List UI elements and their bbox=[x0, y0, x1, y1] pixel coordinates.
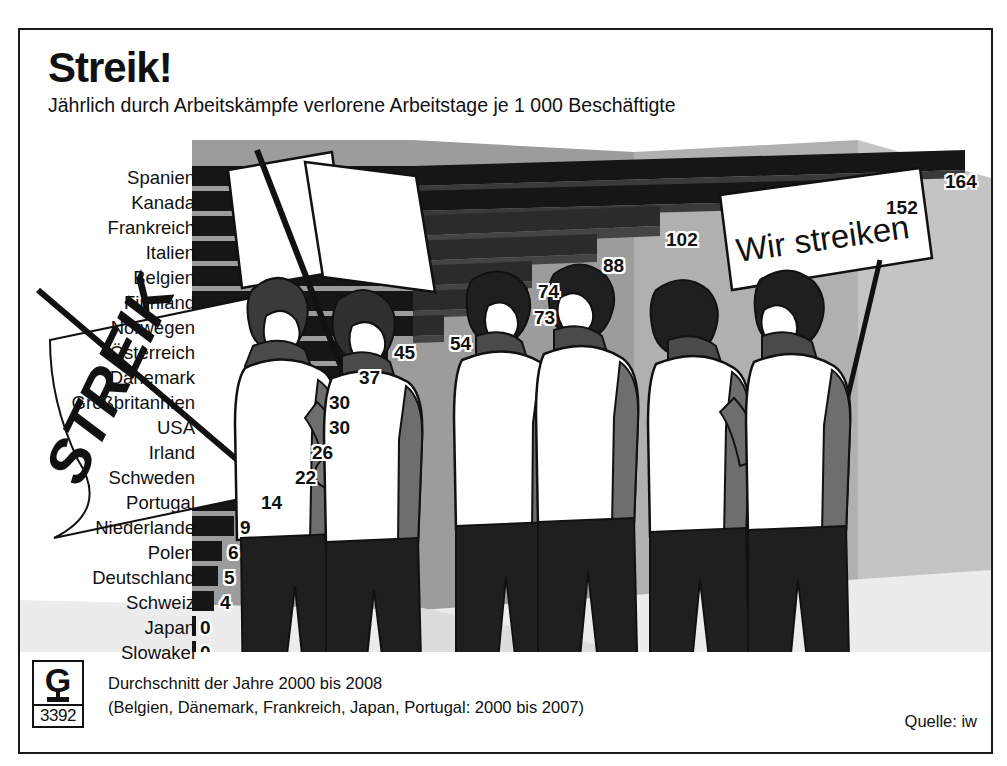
category-label-usa: USA bbox=[20, 419, 195, 438]
globus-g-icon: G bbox=[36, 663, 80, 705]
value-label-schweden: 22 bbox=[295, 468, 316, 487]
value-label-daenemark: 37 bbox=[359, 368, 380, 387]
category-label-irland: Irland bbox=[20, 444, 195, 463]
footer: G 3392 Durchschnitt der Jahre 2000 bis 2… bbox=[20, 652, 991, 750]
value-label-deutschland: 5 bbox=[224, 568, 235, 587]
category-label-daenemark: Dänemark bbox=[20, 369, 195, 388]
value-label-frankreich: 102 bbox=[666, 230, 698, 249]
category-label-schweden: Schweden bbox=[20, 469, 195, 488]
category-label-schweiz: Schweiz bbox=[20, 594, 195, 613]
value-label-kanada: 152 bbox=[886, 198, 918, 217]
source-attribution: Quelle: iw bbox=[905, 712, 977, 731]
bar-polen bbox=[192, 541, 222, 561]
footer-note-line-1: Durchschnitt der Jahre 2000 bis 2008 bbox=[108, 674, 382, 693]
value-label-usa: 30 bbox=[329, 418, 350, 437]
value-label-belgien: 74 bbox=[538, 282, 559, 301]
value-label-schweiz: 4 bbox=[220, 593, 231, 612]
bar-deutschland bbox=[192, 566, 218, 586]
category-label-kanada: Kanada bbox=[20, 194, 195, 213]
category-label-spanien: Spanien bbox=[20, 169, 195, 188]
category-label-italien: Italien bbox=[20, 244, 195, 263]
page-subtitle: Jährlich durch Arbeitskämpfe verlorene A… bbox=[48, 94, 676, 117]
category-label-portugal: Portugal bbox=[20, 494, 195, 513]
globus-logo: G 3392 bbox=[32, 660, 84, 728]
footer-note-line-2: (Belgien, Dänemark, Frankreich, Japan, P… bbox=[108, 698, 584, 717]
value-label-spanien: 164 bbox=[945, 172, 977, 191]
page-title: Streik! bbox=[48, 44, 172, 92]
category-label-japan: Japan bbox=[20, 619, 195, 638]
infographic-frame: Streik! Jährlich durch Arbeitskämpfe ver… bbox=[18, 28, 993, 754]
category-label-niederlande: Niederlande bbox=[20, 519, 195, 538]
bar-niederlande bbox=[192, 516, 234, 536]
category-label-grossbritannien: Großbritannien bbox=[20, 394, 195, 413]
category-label-polen: Polen bbox=[20, 544, 195, 563]
infographic-page: Streik! Jährlich durch Arbeitskämpfe ver… bbox=[0, 0, 1007, 766]
value-label-irland: 26 bbox=[312, 443, 333, 462]
category-label-deutschland: Deutschland bbox=[20, 569, 195, 588]
globus-logo-number: 3392 bbox=[34, 704, 82, 726]
category-label-belgien: Belgien bbox=[20, 269, 195, 288]
category-label-oesterreich: Österreich bbox=[20, 344, 195, 363]
value-label-portugal: 14 bbox=[261, 493, 282, 512]
value-label-polen: 6 bbox=[228, 543, 239, 562]
value-label-niederlande: 9 bbox=[240, 518, 251, 537]
value-label-japan: 0 bbox=[200, 618, 211, 637]
category-label-norwegen: Norwegen bbox=[20, 319, 195, 338]
value-label-norwegen: 54 bbox=[450, 334, 471, 353]
category-label-finnland: Finnland bbox=[20, 294, 195, 313]
category-label-frankreich: Frankreich bbox=[20, 219, 195, 238]
category-labels: Spanien Kanada Frankreich Italien Belgie… bbox=[20, 140, 195, 652]
value-label-finnland: 73 bbox=[534, 308, 555, 327]
value-label-oesterreich: 45 bbox=[394, 343, 415, 362]
bar-schweiz bbox=[192, 591, 214, 611]
value-label-grossbritannien: 30 bbox=[329, 393, 350, 412]
value-label-italien: 88 bbox=[603, 256, 624, 275]
value-label-slowakei: 0 bbox=[200, 643, 211, 652]
